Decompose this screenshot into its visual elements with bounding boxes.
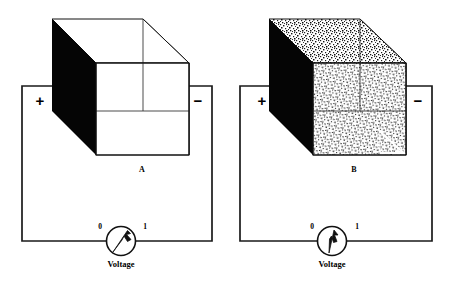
voltmeter-b-tick-min: 0	[310, 222, 314, 231]
voltmeter-a-tick-min: 0	[98, 222, 102, 231]
voltmeter-a-label: Voltage	[107, 259, 134, 269]
figure-root: + − A 0 1 Voltage	[0, 0, 454, 282]
diagram-canvas: + − A 0 1 Voltage	[0, 0, 454, 282]
voltmeter-b-tick-max: 1	[355, 222, 359, 231]
box-label-a: A	[139, 165, 145, 174]
terminal-plus-b: +	[258, 92, 267, 109]
voltmeter-a[interactable]: 0 1 Voltage	[98, 222, 147, 269]
box-a	[52, 19, 189, 155]
panel-a: + − A 0 1 Voltage	[22, 19, 212, 269]
terminal-minus-a: −	[194, 92, 203, 109]
box-b	[269, 19, 406, 155]
terminal-plus-a: +	[36, 92, 45, 109]
box-a-front-face	[96, 63, 189, 155]
panel-b: + − B 0 1 Voltage	[240, 19, 432, 269]
voltmeter-b-label: Voltage	[318, 259, 345, 269]
voltmeter-b[interactable]: 0 1 Voltage	[310, 222, 359, 269]
terminal-minus-b: −	[414, 92, 423, 109]
voltmeter-a-tick-max: 1	[143, 222, 147, 231]
box-label-b: B	[351, 165, 357, 174]
